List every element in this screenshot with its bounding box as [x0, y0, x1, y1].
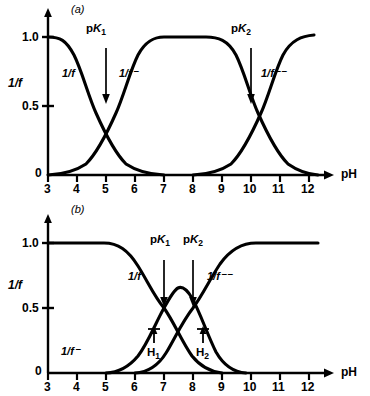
- y-axis-a: [42, 8, 54, 175]
- panel-a: (a) 1.0 0.5 0 1/f pH 3 4 5 6 7 8 9 10 11…: [0, 0, 370, 198]
- y-axis-label-b: 1/f: [8, 278, 22, 292]
- x-tick-4-a: 4: [73, 182, 80, 196]
- x-tick-7-b: 7: [160, 380, 167, 394]
- x-tick-11-a: 11: [272, 182, 285, 196]
- x-tick-12-a: 12: [301, 182, 314, 196]
- curve-a-mono: [48, 37, 318, 175]
- x-tick-6-a: 6: [131, 182, 138, 196]
- x-tick-7-a: 7: [160, 182, 167, 196]
- curve-label-a-di: 1/f⁻⁻: [261, 67, 286, 80]
- x-tick-3-a: 3: [44, 182, 51, 196]
- curve-label-b-neutral: 1/f: [128, 270, 141, 282]
- pk1-label-b: pK1: [150, 233, 170, 248]
- y-axis-label-a: 1/f: [8, 76, 22, 90]
- x-tick-10-a: 10: [243, 182, 256, 196]
- h2-label-b: H2: [196, 346, 209, 361]
- y-axis-b: [42, 214, 54, 373]
- x-tick-9-b: 9: [218, 380, 225, 394]
- x-axis-label-a: pH: [341, 167, 357, 181]
- panel-b: (b) 1.0 0.5 0 1/f pH 3 4 5 6 7 8 9 10 11…: [0, 198, 370, 396]
- x-tick-5-a: 5: [102, 182, 109, 196]
- pk2-label-b: pK2: [183, 233, 203, 248]
- panel-b-plot: [0, 198, 370, 396]
- x-tick-11-b: 11: [272, 380, 285, 394]
- pk1-arrow-b: [160, 260, 168, 307]
- x-tick-8-b: 8: [189, 380, 196, 394]
- curve-label-a-mono: 1/f⁻: [119, 67, 138, 80]
- x-tick-4-b: 4: [73, 380, 80, 394]
- panel-a-label: (a): [71, 3, 84, 15]
- pk2-arrow-b: [189, 260, 197, 307]
- h1-label-b: H1: [147, 346, 160, 361]
- curve-label-b-mono: 1/f⁻: [61, 345, 80, 358]
- curve-label-a-neutral: 1/f: [62, 67, 75, 79]
- curve-label-b-di: 1/f⁻⁻: [207, 270, 232, 283]
- y-tick-0-a: 0: [35, 166, 42, 180]
- y-tick-0.5-b: 0.5: [22, 301, 39, 315]
- x-axis-label-b: pH: [341, 365, 357, 379]
- x-tick-5-b: 5: [102, 380, 109, 394]
- x-tick-3-b: 3: [44, 380, 51, 394]
- x-tick-12-b: 12: [301, 380, 314, 394]
- x-axis-a: [48, 171, 334, 182]
- panel-a-plot: [0, 0, 370, 198]
- pk1-label-a: pK1: [86, 22, 106, 37]
- y-tick-1.0-b: 1.0: [22, 236, 39, 250]
- x-tick-6-b: 6: [131, 380, 138, 394]
- x-tick-10-b: 10: [243, 380, 256, 394]
- pk2-arrow-a: [247, 48, 255, 104]
- pk1-arrow-a: [102, 48, 110, 104]
- x-tick-9-a: 9: [218, 182, 225, 196]
- x-axis-b: [48, 369, 334, 380]
- y-tick-0-b: 0: [35, 364, 42, 378]
- panel-b-label: (b): [71, 203, 84, 215]
- x-tick-8-a: 8: [189, 182, 196, 196]
- y-tick-0.5-a: 0.5: [22, 99, 39, 113]
- y-tick-1.0-a: 1.0: [22, 30, 39, 44]
- pk2-label-a: pK2: [231, 22, 251, 37]
